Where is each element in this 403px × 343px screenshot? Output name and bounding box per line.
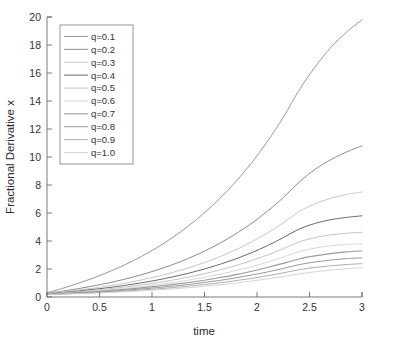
x-tick-label: 2 [254, 301, 260, 313]
y-tick-label: 10 [29, 151, 41, 163]
x-tick-label: 1 [149, 301, 155, 313]
legend-label-q-0-1: q=0.1 [91, 31, 115, 42]
x-axis-title: time [193, 325, 215, 337]
legend-label-q-0-4: q=0.4 [91, 70, 115, 81]
y-tick-label: 4 [35, 235, 41, 247]
x-tick-label: 3 [359, 301, 365, 313]
y-axis-title: Fractional Derivative x [4, 100, 16, 214]
x-tick-label: 1.5 [197, 301, 212, 313]
legend-label-q-0-3: q=0.3 [91, 57, 115, 68]
y-tick-label: 16 [29, 67, 41, 79]
y-tick-label: 18 [29, 39, 41, 51]
y-tick-label: 14 [29, 95, 41, 107]
y-tick-label: 2 [35, 263, 41, 275]
chart-legend: q=0.1q=0.2q=0.3q=0.4q=0.5q=0.6q=0.7q=0.8… [60, 25, 133, 164]
line-chart: 00.511.522.5302468101214161820 q=0.1q=0.… [0, 0, 403, 343]
legend-label-q-0-2: q=0.2 [91, 44, 115, 55]
legend-label-q-1-0: q=1.0 [91, 147, 115, 158]
x-tick-label: 2.5 [302, 301, 317, 313]
y-tick-label: 20 [29, 11, 41, 23]
legend-label-q-0-5: q=0.5 [91, 82, 115, 93]
y-tick-label: 6 [35, 207, 41, 219]
x-tick-label: 0 [44, 301, 50, 313]
legend-label-q-0-6: q=0.6 [91, 95, 115, 106]
y-tick-label: 12 [29, 123, 41, 135]
legend-label-q-0-7: q=0.7 [91, 108, 115, 119]
y-tick-label: 0 [35, 291, 41, 303]
y-tick-label: 8 [35, 179, 41, 191]
chart-figure: 00.511.522.5302468101214161820 q=0.1q=0.… [0, 0, 403, 343]
legend-label-q-0-9: q=0.9 [91, 134, 115, 145]
x-tick-label: 0.5 [92, 301, 107, 313]
legend-label-q-0-8: q=0.8 [91, 121, 115, 132]
